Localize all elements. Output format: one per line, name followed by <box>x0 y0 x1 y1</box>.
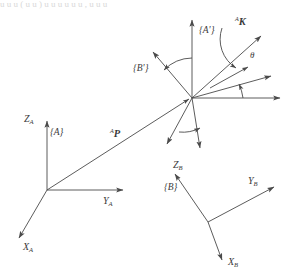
axis-zb-label: ZB <box>173 159 183 171</box>
figure-root: u u u ( u u ) u u u u u u , u u u <box>0 0 287 269</box>
arc-theta-rotation <box>220 28 236 68</box>
axis-yb-line <box>208 187 274 222</box>
axis-xa-line <box>19 190 47 238</box>
frame-a-axes <box>19 121 123 238</box>
axis-za-label: ZA <box>24 113 35 125</box>
frame-b-labels: ZB YB XB {B} <box>164 159 258 268</box>
axis-xa-label: XA <box>22 241 34 253</box>
frame-a-labels: ZA YA XA {A} <box>22 113 114 253</box>
frame-b-axes <box>175 174 274 260</box>
vector-a-k-label: AK <box>234 15 247 27</box>
arc-theta-chord <box>210 67 248 88</box>
axis-xb-label: XB <box>227 256 238 268</box>
arc-z-axes <box>164 58 192 70</box>
axis-yb-label: YB <box>248 175 258 187</box>
coordinate-frames-diagram: ZA YA XA {A} ZB YB XB {B} {A'} {B'} AP A… <box>0 0 287 269</box>
vector-a-p-line <box>47 99 189 190</box>
frame-a-prime-label: {A'} <box>199 25 215 35</box>
vector-a-p-label: AP <box>109 127 121 139</box>
axis-zb-line <box>175 174 208 222</box>
axis-ya-label: YA <box>103 195 114 207</box>
frame-a-label: {A} <box>50 127 64 137</box>
frame-a-prime-axes <box>192 20 280 148</box>
angle-theta-label: θ <box>250 50 255 60</box>
frame-b-label: {B} <box>164 182 178 192</box>
axis-a-prime-x-line <box>192 98 200 148</box>
frame-b-prime-label: {B'} <box>133 63 149 73</box>
arc-y-axes <box>239 84 243 98</box>
axis-xb-line <box>208 222 222 260</box>
